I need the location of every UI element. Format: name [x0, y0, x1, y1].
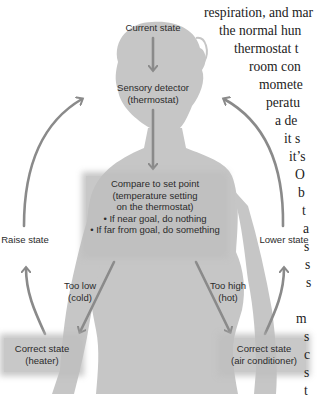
prose-line: respiration, and mar [204, 3, 313, 23]
prose-line: s [304, 327, 309, 347]
prose-line: m [296, 309, 307, 329]
prose-line: s [305, 255, 310, 275]
prose-line: room con [249, 57, 301, 77]
prose-line: s [306, 273, 311, 293]
prose-line: c [304, 345, 310, 365]
prose-line: s [304, 237, 309, 257]
prose-line: a de [275, 111, 297, 131]
prose-line: momete [259, 75, 303, 95]
prose-line: peratu [266, 93, 300, 113]
prose-line: b [298, 183, 305, 203]
prose-line: it s [284, 129, 300, 149]
prose-line: s [304, 363, 309, 383]
prose-line: the normal hun [219, 21, 301, 41]
prose-line: t [302, 201, 306, 221]
prose-line: thermostat t [234, 39, 299, 59]
prose-line: O [295, 165, 305, 185]
prose-line: a [303, 219, 309, 239]
prose-line: t [304, 381, 308, 399]
prose-line: it’s [289, 147, 306, 167]
